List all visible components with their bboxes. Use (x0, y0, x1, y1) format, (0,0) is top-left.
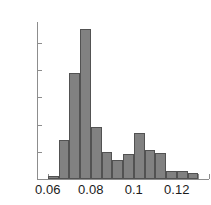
histogram-figure: 01020304050 0.060.080.10.12 (0, 0, 211, 205)
x-tick-label-0.12: 0.12 (152, 183, 202, 196)
x-tick-0.135 (209, 174, 210, 179)
x-axis-tick-labels: 0.060.080.10.12 (37, 0, 209, 205)
